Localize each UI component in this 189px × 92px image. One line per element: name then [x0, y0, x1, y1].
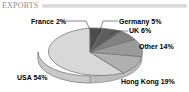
- header-divider: [42, 4, 187, 8]
- chart-plot-area: France 2% Germany 5% UK 6% Other 14% Hon…: [0, 10, 189, 92]
- pie-label-germany: Germany 5%: [119, 18, 161, 26]
- exports-pie-chart-figure: EXPORTS: [0, 0, 189, 92]
- pie-label-france: France 2%: [31, 18, 66, 26]
- pie-label-usa: USA 54%: [17, 74, 47, 82]
- pie-label-hongkong: Hong Kong 19%: [121, 78, 175, 86]
- pie-slices: [48, 28, 142, 76]
- page-title: EXPORTS: [2, 1, 38, 10]
- pie-label-uk: UK 6%: [129, 27, 151, 35]
- pie-label-other: Other 14%: [139, 43, 174, 51]
